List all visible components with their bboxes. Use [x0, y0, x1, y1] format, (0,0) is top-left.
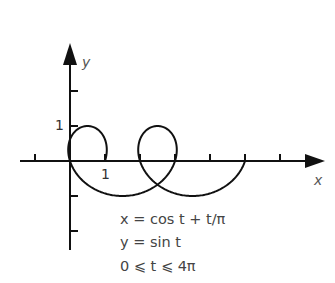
x-tick-label-1: 1 — [101, 166, 110, 182]
x-axis-ticks — [35, 154, 280, 161]
parametric-curve-figure: y x 1 1 x = cos t + t/π y = sin t 0 ⩽ t … — [0, 0, 335, 283]
y-tick-label-1: 1 — [55, 117, 64, 133]
y-axis-label: y — [81, 54, 91, 70]
x-axis-arrowhead-icon — [305, 154, 325, 168]
equation-x: x = cos t + t/π — [120, 211, 226, 227]
parameter-range: 0 ⩽ t ⩽ 4π — [120, 258, 196, 274]
y-axis-arrowhead-icon — [63, 43, 77, 65]
x-axis-label: x — [313, 172, 323, 188]
equation-y: y = sin t — [120, 234, 181, 250]
